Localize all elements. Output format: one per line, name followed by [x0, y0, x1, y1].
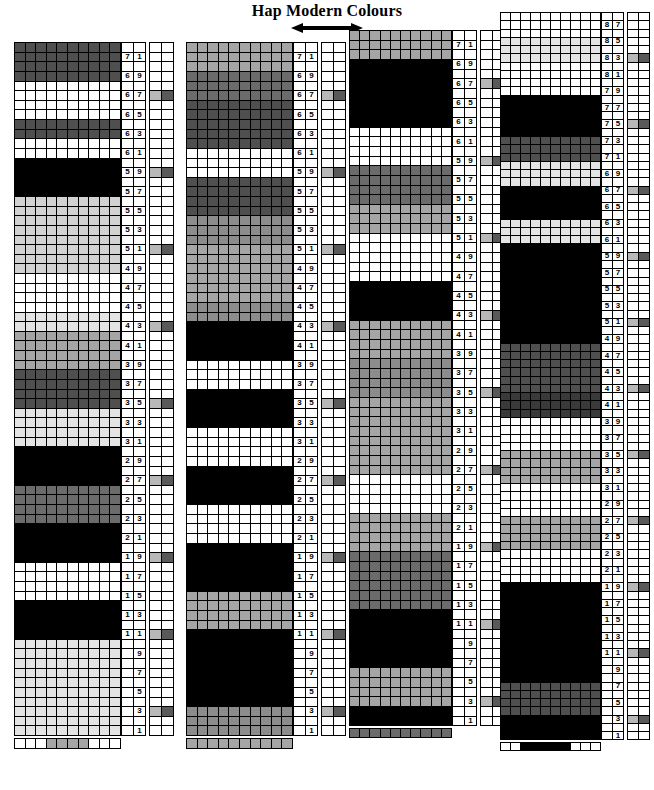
chart-cell [36, 139, 47, 149]
key-cell [481, 417, 493, 427]
chart-cell [110, 82, 121, 92]
key-row [150, 669, 174, 679]
row-number-row: 37 [453, 369, 477, 379]
chart-cell [15, 72, 26, 82]
chart-cell [401, 176, 411, 186]
chart-cell [561, 63, 571, 71]
chart-cell [251, 168, 262, 178]
chart-row [15, 245, 121, 255]
chart-cell [219, 678, 230, 688]
row-number-tens [294, 726, 306, 736]
chart-cell [229, 544, 240, 554]
chart-cell [36, 284, 47, 294]
chart-cell [591, 732, 601, 740]
chart-cell [411, 456, 421, 466]
chart-cell [411, 591, 421, 601]
chart-cell [110, 274, 121, 284]
chart-cell [272, 438, 283, 448]
chart-cell [391, 601, 401, 611]
footer-cell [541, 743, 551, 751]
chart-cell [36, 534, 47, 544]
chart-row [501, 674, 601, 682]
chart-cell [432, 147, 442, 157]
chart-cell [110, 303, 121, 313]
chart-cell [511, 666, 521, 674]
chart-cell [79, 544, 90, 554]
row-number-row: 75 [602, 120, 624, 128]
chart-cell [360, 591, 370, 601]
chart-row [187, 332, 293, 342]
row-number-row: 27 [294, 476, 318, 486]
key-row [150, 120, 174, 130]
key-cell [150, 544, 162, 554]
chart-cell [391, 379, 401, 389]
chart-row [350, 630, 452, 640]
chart-cell [68, 110, 79, 120]
chart-cell [68, 91, 79, 101]
chart-cell [261, 698, 272, 708]
chart-cell [381, 446, 391, 456]
chart-cell [261, 717, 272, 727]
chart-row [501, 641, 601, 649]
key-cell [150, 390, 162, 400]
chart-cell [370, 108, 380, 118]
chart-cell [79, 698, 90, 708]
chart-cell [421, 31, 431, 41]
chart-cell [79, 120, 90, 130]
chart-cell [381, 552, 391, 562]
key-cell [481, 610, 493, 620]
chart-row [350, 649, 452, 659]
chart-cell [89, 245, 100, 255]
chart-cell [442, 118, 452, 128]
row-number-tens [294, 669, 306, 679]
chart-row [15, 447, 121, 457]
row-number-tens: 8 [602, 21, 613, 29]
chart-cell [350, 688, 360, 698]
chart-cell [251, 390, 262, 400]
chart-cell [208, 457, 219, 467]
chart-row [187, 370, 293, 380]
chart-cell [551, 145, 561, 153]
key-row [628, 30, 650, 38]
chart-cell [442, 224, 452, 234]
key-cell [334, 409, 346, 419]
chart-cell [442, 359, 452, 369]
row-number-row: 53 [294, 226, 318, 236]
key-cell [628, 220, 639, 228]
chart-cell [26, 476, 37, 486]
chart-cell [47, 53, 58, 63]
key-cell [150, 43, 162, 53]
chart-cell [187, 707, 198, 717]
chart-cell [521, 625, 531, 633]
chart-cell [401, 514, 411, 524]
chart-cell [501, 269, 511, 277]
chart-cell [240, 110, 251, 120]
chart-cell [370, 495, 380, 505]
chart-cell [110, 495, 121, 505]
chart-cell [561, 344, 571, 352]
chart-row [350, 147, 452, 157]
key-cell [639, 683, 650, 691]
chart-cell [511, 120, 521, 128]
chart-cell [240, 649, 251, 659]
row-number-tens: 6 [453, 118, 465, 128]
key-marker-cell [639, 451, 650, 459]
chart-cell [360, 446, 370, 456]
chart-cell [581, 368, 591, 376]
chart-cell [110, 476, 121, 486]
chart-cell [36, 476, 47, 486]
chart-cell [219, 688, 230, 698]
chart-cell [187, 505, 198, 515]
chart-cell [100, 457, 111, 467]
row-number-row: 71 [122, 53, 146, 63]
chart-cell [561, 550, 571, 558]
row-number-row [453, 379, 477, 389]
chart-cell [251, 351, 262, 361]
chart-cell [187, 515, 198, 525]
key-row [322, 255, 346, 265]
chart-cell [521, 666, 531, 674]
chart-cell [110, 351, 121, 361]
chart-cell [68, 274, 79, 284]
chart-cell [350, 678, 360, 688]
row-number-tens: 3 [294, 418, 306, 428]
